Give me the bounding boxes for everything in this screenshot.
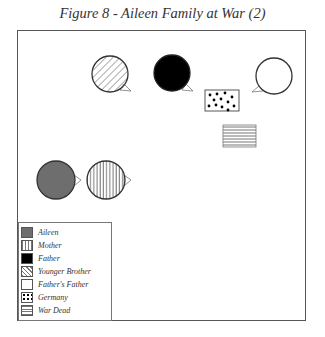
legend-swatch-horizontal-lines bbox=[21, 305, 33, 316]
fathers-father-node bbox=[252, 58, 292, 94]
legend-item-younger-brother: Younger Brother bbox=[21, 265, 91, 277]
legend-swatch-vertical-lines bbox=[21, 240, 33, 251]
legend-item-mother: Mother bbox=[21, 239, 62, 251]
legend-label: Aileen bbox=[38, 228, 58, 237]
legend-swatch-solid-black bbox=[21, 253, 33, 264]
war-dead-node bbox=[223, 125, 256, 147]
legend-swatch-blank bbox=[21, 279, 33, 290]
mother-node bbox=[87, 161, 131, 199]
legend-label: Germany bbox=[38, 293, 68, 302]
legend: Aileen Mother Father Younger Brother Fat… bbox=[18, 222, 112, 321]
legend-swatch-dots bbox=[21, 292, 33, 303]
legend-label: Father bbox=[38, 254, 60, 263]
aileen-node bbox=[37, 161, 81, 199]
legend-label: War Dead bbox=[38, 306, 70, 315]
legend-item-aileen: Aileen bbox=[21, 226, 58, 238]
legend-swatch-diagonal-lines bbox=[21, 266, 33, 277]
legend-label: Younger Brother bbox=[38, 267, 91, 276]
legend-item-fathers-father: Father's Father bbox=[21, 278, 88, 290]
legend-item-war-dead: War Dead bbox=[21, 304, 70, 316]
legend-label: Father's Father bbox=[38, 280, 88, 289]
legend-item-germany: Germany bbox=[21, 291, 68, 303]
legend-item-father: Father bbox=[21, 252, 60, 264]
father-node bbox=[154, 55, 193, 91]
younger-brother-node bbox=[92, 56, 131, 92]
germany-node bbox=[205, 90, 239, 111]
legend-label: Mother bbox=[38, 241, 62, 250]
legend-swatch-solid-gray bbox=[21, 227, 33, 238]
